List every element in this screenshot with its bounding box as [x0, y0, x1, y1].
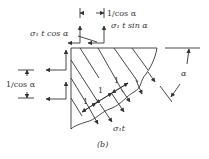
left-dim-label: 1/cos α	[6, 80, 36, 89]
top-dim-label: 1/cos α	[107, 9, 137, 18]
top-dimension: 1/cos α	[80, 8, 137, 18]
figure-caption: (b)	[97, 140, 108, 149]
unit1-label: 1	[83, 97, 88, 106]
left-dimension: 1/cos α	[6, 50, 66, 99]
unit3-label: 1	[114, 76, 119, 85]
stress-label: σ₁t	[113, 124, 126, 133]
angle-label: α	[181, 69, 187, 78]
force-y-label: σ₁ t sin α	[111, 21, 148, 30]
force-x-label: σ₁ t cos α	[30, 29, 69, 38]
unit2-label: 1	[98, 86, 103, 95]
unit-dimensions: 1 1 1 σ₁t	[82, 76, 128, 133]
top-forces: σ₁ t cos α σ₁ t sin α	[30, 21, 148, 43]
stress-diagram: 1/cos α σ₁ t cos α σ₁ t sin α	[0, 0, 209, 159]
element-body	[71, 48, 157, 129]
angle-indicator: α	[160, 48, 200, 102]
